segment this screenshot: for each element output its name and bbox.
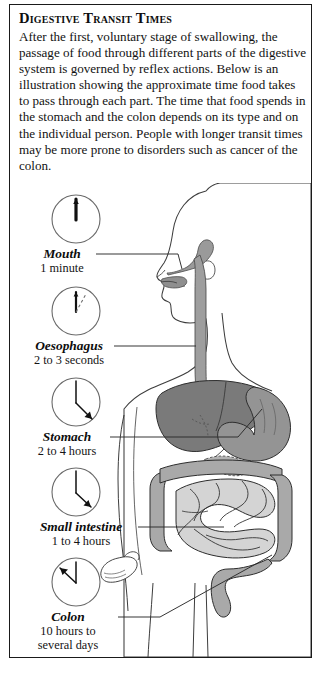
organ-time-small-intestine: 1 to 4 hours: [10, 534, 152, 548]
label-colon: Colon 10 hours to several days: [14, 609, 122, 653]
label-small-intestine: Small intestine 1 to 4 hours: [10, 519, 152, 548]
clock-stomach: [52, 378, 100, 426]
clock-colon: [52, 558, 100, 606]
organ-time-stomach: 2 to 4 hours: [12, 444, 122, 458]
organ-time-colon-line2: several days: [14, 638, 122, 652]
label-stomach: Stomach 2 to 4 hours: [12, 429, 122, 458]
organ-name-mouth: Mouth: [14, 246, 110, 261]
label-oesophagus: Oesophagus 2 to 3 seconds: [10, 338, 128, 367]
clock-oesophagus: [52, 287, 100, 335]
organ-time-colon-line1: 10 hours to: [14, 624, 122, 638]
page-title: Digestive Transit Times: [19, 10, 172, 27]
organ-name-oesophagus: Oesophagus: [10, 338, 128, 353]
clock-mouth: [52, 195, 100, 243]
clock-small-intestine: [52, 468, 100, 516]
illustration-panel: Digestive Transit Times After the first,…: [9, 4, 312, 658]
organ-name-small-intestine: Small intestine: [10, 519, 152, 534]
organ-name-stomach: Stomach: [12, 429, 122, 444]
organ-time-oesophagus: 2 to 3 seconds: [10, 353, 128, 367]
organ-time-mouth: 1 minute: [14, 261, 110, 275]
label-mouth: Mouth 1 minute: [14, 246, 110, 275]
intro-paragraph: After the first, voluntary stage of swal…: [19, 29, 307, 174]
organ-name-colon: Colon: [14, 609, 122, 624]
